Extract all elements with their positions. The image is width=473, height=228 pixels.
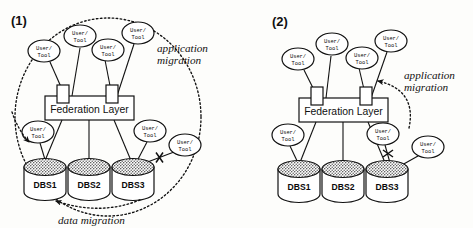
panel-2-node-7-line1: User/ xyxy=(420,142,436,148)
panel-2-port-right xyxy=(360,87,372,105)
panel-2-application-migration-label-line1: application xyxy=(404,69,455,81)
panel-2-application-migration-label-line2: migration xyxy=(404,81,449,93)
panel-1-node-6-line1: User/ xyxy=(142,126,158,132)
panel-1-node-7-migrating[interactable]: User/ Tool xyxy=(169,134,201,156)
panel-2-dbs3-top xyxy=(366,161,408,178)
panel-1-database-dbs2: DBS2 xyxy=(68,159,110,201)
panel-2-dbs2-top xyxy=(322,161,364,178)
panel-1-application-migration-label-line2: migration xyxy=(157,54,202,66)
panel-1-node-2-line1: User/ xyxy=(72,31,88,37)
panel-2-dbs1-label: DBS1 xyxy=(288,182,311,192)
panel-1-node-5-line1: User/ xyxy=(30,127,46,133)
panel-2-node-6-line1: User/ xyxy=(375,129,391,135)
panel-2-database-dbs3: DBS3 xyxy=(366,161,408,203)
panel-1-node-2[interactable]: User/ Tool xyxy=(64,25,96,47)
panel-1-port-right xyxy=(106,85,118,103)
panel-2-node-3-line2: Tool xyxy=(356,60,369,66)
panel-2-node-3-line1: User/ xyxy=(354,53,370,59)
panel-1-dbs3-label: DBS3 xyxy=(122,180,145,190)
panel-2-node-5-line2: Tool xyxy=(282,137,295,143)
panel-1-dbs1-top xyxy=(24,159,66,176)
panel-1-dbs2-top xyxy=(68,159,110,176)
panel-2-node-1[interactable]: User/ Tool xyxy=(282,48,314,70)
panel-2-node-5-line1: User/ xyxy=(280,130,296,136)
panel-1-dbs3-top xyxy=(112,159,154,176)
federated-database-migration-diagram: (1) Federation Layer xyxy=(0,0,473,228)
panel-1-node-4-line2: Tool xyxy=(132,35,145,41)
panel-2-dbs2-label: DBS2 xyxy=(332,182,355,192)
panel-1-dbs1-label: DBS1 xyxy=(34,180,57,190)
panel-1-node-3-line1: User/ xyxy=(100,45,116,51)
panel-2-node-4-line2: Tool xyxy=(385,43,398,49)
panel-2-node-4-line1: User/ xyxy=(383,36,399,42)
panel-2-dbs3-label: DBS3 xyxy=(376,182,399,192)
panel-2-node-6-line2: Tool xyxy=(377,136,390,142)
panel-2-port-left xyxy=(311,87,323,105)
panel-1-node-7-line1: User/ xyxy=(177,140,193,146)
panel-2-node-1-line1: User/ xyxy=(290,54,306,60)
panel-2-federation-layer-label: Federation Layer xyxy=(304,106,383,117)
panel-1-label: (1) xyxy=(11,13,27,28)
panel-1-node-2-line2: Tool xyxy=(74,38,87,44)
panel-1-port-left xyxy=(57,85,69,103)
panel-2-label: (2) xyxy=(272,14,288,29)
panel-1-node-6[interactable]: User/ Tool xyxy=(134,120,166,142)
panel-1-data-migration-label: data migration xyxy=(58,214,125,226)
panel-1-dbs2-label: DBS2 xyxy=(78,180,101,190)
panel-1-node-3-line2: Tool xyxy=(102,52,115,58)
panel-2-node-7-migrated[interactable]: User/ Tool xyxy=(412,136,444,158)
panel-1-node-5-line2: Tool xyxy=(32,134,45,140)
panel-2-database-dbs2: DBS2 xyxy=(322,161,364,203)
panel-2-node-3[interactable]: User/ Tool xyxy=(346,47,378,69)
panel-2-node-2[interactable]: User/ Tool xyxy=(316,33,348,55)
panel-1-node-3[interactable]: User/ Tool xyxy=(92,39,124,61)
panel-1-node-1-line2: Tool xyxy=(38,53,51,59)
panel-2-node-2-line2: Tool xyxy=(326,46,339,52)
panel-2-dbs1-top xyxy=(278,161,320,178)
panel-1-node-7-line2: Tool xyxy=(179,147,192,153)
panel-1-federation-layer-label: Federation Layer xyxy=(50,104,129,115)
panel-2-node-7-line2: Tool xyxy=(422,149,435,155)
diagram-canvas: (1) Federation Layer xyxy=(0,0,473,228)
panel-2-node-5[interactable]: User/ Tool xyxy=(272,124,304,146)
panel-1-database-dbs3: DBS3 xyxy=(112,159,154,201)
panel-2-database-dbs1: DBS1 xyxy=(278,161,320,203)
panel-1-application-migration-label-line1: application xyxy=(157,42,208,54)
panel-1-node-1[interactable]: User/ Tool xyxy=(28,40,60,62)
panel-1-node-6-line2: Tool xyxy=(144,133,157,139)
panel-1-database-dbs1: DBS1 xyxy=(24,159,66,201)
panel-2-node-4[interactable]: User/ Tool xyxy=(375,30,407,52)
panel-1-node-1-line1: User/ xyxy=(36,46,52,52)
panel-1-node-4-line1: User/ xyxy=(130,28,146,34)
panel-2-node-6[interactable]: User/ Tool xyxy=(367,123,399,145)
panel-2-node-2-line1: User/ xyxy=(324,39,340,45)
panel-2-node-1-line2: Tool xyxy=(292,61,305,67)
panel-1-node-4[interactable]: User/ Tool xyxy=(122,22,154,44)
